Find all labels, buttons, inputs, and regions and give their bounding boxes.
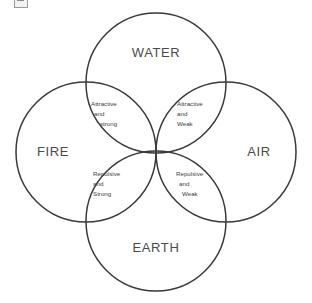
element-label-water: WATER bbox=[0, 46, 312, 59]
element-label-earth: EARTH bbox=[0, 241, 312, 254]
overlap-line-1: Repulsive bbox=[176, 169, 203, 179]
circle-water bbox=[86, 13, 226, 153]
overlap-line-1: Attractive bbox=[177, 99, 203, 109]
overlap-line-3: Weak bbox=[177, 119, 203, 129]
overlap-line-3: strong bbox=[91, 119, 117, 129]
overlap-line-2: and bbox=[176, 179, 203, 189]
overlap-label-fire-earth: Repulsive and Strong bbox=[93, 169, 120, 198]
overlap-label-earth-air: Repulsive and Weak bbox=[176, 169, 203, 198]
overlap-line-3: Strong bbox=[93, 189, 120, 199]
venn-diagram: WATER FIRE AIR EARTH Attractive and stro… bbox=[0, 0, 312, 303]
element-label-air: AIR bbox=[222, 145, 296, 158]
broken-image-placeholder-icon bbox=[14, 0, 28, 8]
overlap-label-fire-water: Attractive and strong bbox=[91, 99, 117, 128]
overlap-label-water-air: Attractive and Weak bbox=[177, 99, 203, 128]
overlap-line-1: Attractive bbox=[91, 99, 117, 109]
element-label-fire: FIRE bbox=[16, 145, 90, 158]
overlap-line-1: Repulsive bbox=[93, 169, 120, 179]
overlap-line-2: and bbox=[93, 179, 120, 189]
overlap-line-3: Weak bbox=[176, 189, 203, 199]
overlap-line-2: and bbox=[177, 109, 203, 119]
overlap-line-2: and bbox=[91, 109, 117, 119]
